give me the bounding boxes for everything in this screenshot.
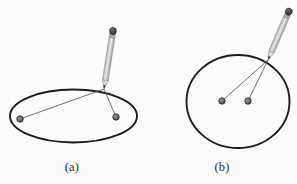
panel-a-caption: (a) — [47, 160, 97, 175]
ellipse-construction-figure: (a) (b) — [0, 0, 297, 184]
panel-b-foci — [219, 98, 251, 104]
panel-b-right-pin-icon — [245, 98, 251, 104]
panel-a-right-pin-icon — [113, 114, 119, 120]
panel-a-string-to-left-pin — [20, 89, 104, 119]
panel-b-strings — [222, 60, 268, 101]
panel-b-left-pin-icon — [219, 98, 225, 104]
panel-b-circle-curve — [187, 55, 290, 148]
panel-b-string-to-right-pin — [248, 60, 268, 101]
panel-a-left-pin-icon — [17, 116, 23, 122]
panel-a-pencil-icon — [101, 27, 117, 90]
panel-a — [10, 27, 137, 142]
panel-b-pencil-barrel — [269, 17, 289, 53]
panel-b-pencil-icon — [265, 7, 293, 61]
panel-a-pencil-eraser — [109, 27, 117, 35]
panel-a-pencil-tip — [101, 80, 108, 90]
panel-a-pencil-barrel — [103, 37, 115, 80]
panel-b-caption: (b) — [197, 160, 247, 175]
panel-a-string-to-right-pin — [104, 89, 116, 117]
panel-b — [187, 7, 294, 148]
panel-a-strings — [20, 89, 116, 119]
figure-canvas — [0, 0, 297, 184]
panel-b-string-to-left-pin — [222, 60, 268, 101]
